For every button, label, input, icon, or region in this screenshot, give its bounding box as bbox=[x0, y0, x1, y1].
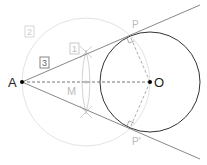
tangent-construction-diagram: A O M P P' 2 1 3 bbox=[0, 0, 207, 165]
label-O: O bbox=[154, 75, 164, 90]
label-P-prime: P' bbox=[132, 136, 141, 147]
point-O bbox=[148, 80, 152, 84]
radius-OP-prime-dashed bbox=[130, 82, 150, 128]
tangent-line-upper bbox=[22, 5, 200, 82]
point-M bbox=[85, 81, 88, 84]
step-label-2: 2 bbox=[27, 27, 32, 37]
point-A bbox=[20, 80, 24, 84]
label-M: M bbox=[67, 85, 76, 97]
step-label-3: 3 bbox=[42, 58, 47, 68]
tangent-line-lower bbox=[22, 82, 200, 159]
step-label-1: 1 bbox=[72, 44, 77, 54]
label-P: P bbox=[132, 19, 139, 30]
label-A: A bbox=[8, 75, 17, 90]
radius-OP-dashed bbox=[130, 36, 150, 82]
